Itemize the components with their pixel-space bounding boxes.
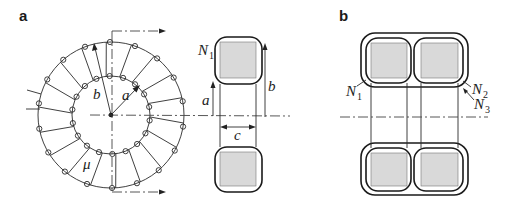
lead-wire-1 — [27, 90, 41, 94]
core-lower-left — [371, 153, 407, 186]
winding-turn — [148, 98, 182, 104]
winding-n1-label: N — [197, 42, 209, 58]
winding-turn — [40, 126, 74, 132]
winding-turn — [147, 130, 177, 147]
radius-a-label: a — [122, 87, 130, 103]
winding-turn — [38, 107, 72, 113]
winding-turn — [129, 150, 141, 182]
winding-turn — [120, 45, 132, 77]
winding-turn — [46, 83, 76, 100]
winding-n1-sub-b: 1 — [357, 91, 362, 102]
winding-n3-label: N — [473, 96, 485, 112]
winding-turn — [82, 48, 94, 80]
dimension-b-label: b — [268, 78, 276, 94]
multi-winding-cross-section: N 1 N 2 N 3 — [340, 33, 490, 195]
core-lower — [220, 152, 256, 186]
figure-canvas: a a b μ — [0, 0, 509, 201]
winding-turn — [91, 153, 103, 185]
dimension-b-arrowhead — [263, 43, 268, 50]
winding-n1-label-b: N — [345, 83, 357, 99]
dimension-c-arrowhead-right — [249, 125, 256, 130]
core-upper-right — [421, 43, 458, 78]
winding-turn — [150, 117, 184, 123]
core-upper-left — [371, 43, 407, 78]
core-upper — [220, 42, 256, 78]
horizontal-axis-line — [90, 115, 290, 116]
dimension-c-label: c — [234, 127, 241, 143]
toroid-cross-section: N 1 a b c — [197, 37, 276, 192]
panel-label-b: b — [339, 7, 348, 24]
winding-turn — [50, 139, 80, 156]
winding-n1-subscript: 1 — [209, 50, 214, 61]
section-arrow-top-head — [159, 29, 166, 34]
panel-label-a: a — [19, 7, 28, 24]
winding-turn — [61, 62, 83, 88]
dimension-a-label: a — [202, 92, 210, 108]
n2-leader — [463, 81, 471, 87]
section-arrow-bottom-head — [159, 190, 166, 195]
core-lower-right — [421, 153, 458, 186]
dimension-a-arrowhead — [211, 81, 216, 88]
winding-n2-label: N — [471, 81, 483, 97]
dimension-c-arrowhead-left — [220, 125, 227, 130]
winding-turn — [132, 56, 154, 82]
permeability-label: μ — [82, 156, 91, 172]
winding-turn — [140, 142, 162, 168]
radius-b-label: b — [93, 86, 101, 102]
winding-n3-sub: 3 — [485, 104, 490, 115]
winding-turn — [142, 74, 172, 91]
